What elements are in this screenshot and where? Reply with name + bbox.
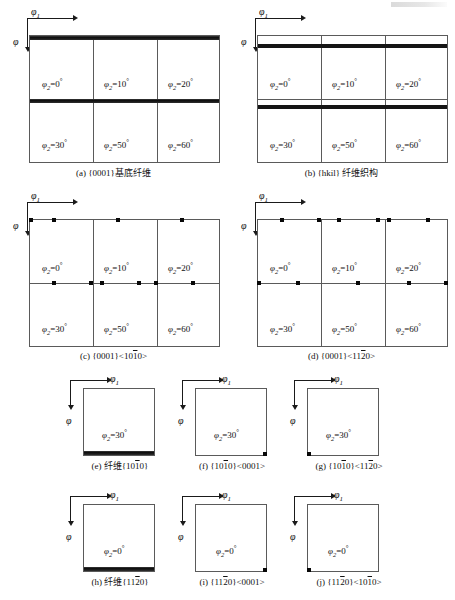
- panel-h-phi1-label: φ1: [110, 490, 119, 503]
- panel-c-point: [29, 218, 33, 222]
- panel-c: φ1 φ φ2=0° φ2=10° φ2=20° φ2=30° φ2=50°: [0, 186, 227, 366]
- panel-c-point: [89, 281, 93, 285]
- panel-c-caption: (c) {0001}<1010>: [0, 352, 227, 362]
- panel-e-caption: (e) 纤维{1010}: [60, 462, 180, 472]
- panel-j-point: [307, 568, 311, 572]
- panel-d-cell-1: φ2=10°: [332, 262, 357, 275]
- panel-c-cell-2: φ2=20°: [168, 262, 193, 275]
- panel-d-point: [376, 218, 380, 222]
- panel-e-plot: φ2=30°: [83, 388, 155, 456]
- panel-j-phi-label: φ: [290, 532, 296, 542]
- panel-h-caption: (h) 纤维{1120}: [60, 578, 180, 588]
- panel-d-point: [407, 281, 411, 285]
- panel-g-caption: (g) {1010}<1120>: [284, 462, 414, 472]
- panel-d-point: [387, 218, 391, 222]
- panel-c-point: [154, 281, 158, 285]
- panel-c-cell-0: φ2=0°: [42, 262, 63, 275]
- panel-g-point: [307, 452, 311, 456]
- panel-d-point: [257, 281, 261, 285]
- panel-g-phi-label: φ: [290, 416, 296, 426]
- panel-f-phi-label: φ: [178, 416, 184, 426]
- panel-c-point: [180, 218, 184, 222]
- panel-b-caption: (b) {hkil} 纤维织构: [228, 169, 455, 179]
- panel-a-cell-4: φ2=50°: [104, 139, 129, 152]
- panel-h: φ1 φ φ2=0° (h) 纤维{1120}: [60, 488, 180, 593]
- panel-d: φ1 φ φ2=0° φ2=10° φ2=20° φ2=30° φ2=50: [228, 186, 455, 366]
- panel-c-cell-1: φ2=10°: [104, 262, 129, 275]
- panel-c-point: [116, 218, 120, 222]
- panel-d-cell-4: φ2=50°: [332, 323, 357, 336]
- panel-a-cell-2: φ2=20°: [168, 78, 193, 91]
- panel-b-cell-2: φ2=20°: [396, 78, 421, 91]
- panel-e: φ1 φ φ2=30° (e) 纤维{1010}: [60, 372, 180, 477]
- panel-b-plot: φ2=0° φ2=10° φ2=20° φ2=30° φ2=50° φ2=60°: [257, 35, 448, 163]
- panel-f-cell: φ2=30°: [214, 429, 239, 442]
- panel-f: φ1 φ φ2=30° (f) {1010}<0001>: [172, 372, 292, 477]
- panel-i-phi-label: φ: [178, 532, 184, 542]
- panel-h-plot: φ2=0°: [83, 504, 155, 572]
- panel-a-cell-1: φ2=10°: [104, 78, 129, 91]
- panel-f-point: [263, 452, 267, 456]
- panel-d-phi-label: φ: [241, 221, 247, 231]
- panel-b-cell-3: φ2=30°: [270, 139, 295, 152]
- panel-b-cell-5: φ2=60°: [396, 139, 421, 152]
- panel-c-point: [52, 281, 56, 285]
- panel-c-cell-4: φ2=50°: [104, 323, 129, 336]
- panel-c-plot: φ2=0° φ2=10° φ2=20° φ2=30° φ2=50° φ2=60°: [29, 219, 220, 347]
- panel-j-plot: φ2=0°: [307, 504, 379, 572]
- panel-g: φ1 φ φ2=30° (g) {1010}<1120>: [284, 372, 414, 477]
- panel-g-plot: φ2=30°: [307, 388, 379, 456]
- panel-b-phi1-label: φ1: [259, 7, 268, 20]
- panel-b-cell-0: φ2=0°: [270, 78, 291, 91]
- panel-c-cell-5: φ2=60°: [168, 323, 193, 336]
- panel-d-phi1-label: φ1: [259, 191, 268, 204]
- panel-a-phi1-label: φ1: [31, 7, 40, 20]
- panel-i-plot: φ2=0°: [195, 504, 267, 572]
- panel-d-point: [317, 218, 321, 222]
- panel-i-phi1-label: φ1: [222, 490, 231, 503]
- panel-j-phi1-label: φ1: [334, 490, 343, 503]
- panel-h-cell: φ2=0°: [104, 545, 125, 558]
- panel-c-point: [100, 281, 104, 285]
- panel-a-caption: (a) {0001}基底纤维: [0, 169, 227, 179]
- panel-i-caption: (i) {1120}<0001>: [172, 578, 292, 588]
- panel-e-band-bottom: [84, 451, 154, 455]
- panel-g-phi1-label: φ1: [334, 374, 343, 387]
- panel-b-band-row2: [258, 105, 447, 109]
- panel-d-point: [337, 218, 341, 222]
- panel-d-point: [296, 281, 300, 285]
- panel-e-phi1-label: φ1: [110, 374, 119, 387]
- panel-b-band-row1: [258, 44, 447, 48]
- panel-d-cell-0: φ2=0°: [270, 262, 291, 275]
- panel-d-cell-5: φ2=60°: [396, 323, 421, 336]
- panel-j-caption: (j) {1120}<1010>: [284, 578, 414, 588]
- panel-b-cell-1: φ2=10°: [332, 78, 357, 91]
- panel-h-band-bottom: [84, 567, 154, 571]
- panel-j-cell: φ2=0°: [328, 545, 349, 558]
- panel-a: φ1 φ φ2=0° φ2=10° φ2=20° φ2=30° φ2=50° φ…: [0, 0, 227, 185]
- panel-c-point: [191, 281, 195, 285]
- panel-a-band-row1: [30, 36, 219, 40]
- panel-d-point: [444, 281, 448, 285]
- panel-d-cell-3: φ2=30°: [270, 323, 295, 336]
- panel-i-cell: φ2=0°: [216, 545, 237, 558]
- panel-e-cell: φ2=30°: [102, 429, 127, 442]
- panel-a-plot: φ2=0° φ2=10° φ2=20° φ2=30° φ2=50° φ2=60°: [29, 35, 220, 163]
- panel-b-cell-4: φ2=50°: [332, 139, 357, 152]
- panel-h-phi-label: φ: [66, 532, 72, 542]
- panel-d-plot: φ2=0° φ2=10° φ2=20° φ2=30° φ2=50° φ2=60°: [257, 219, 448, 347]
- panel-a-cell-0: φ2=0°: [42, 78, 63, 91]
- panel-f-caption: (f) {1010}<0001>: [172, 462, 292, 472]
- panel-c-cell-3: φ2=30°: [42, 323, 67, 336]
- panel-e-phi-label: φ: [66, 416, 72, 426]
- panel-b: φ1 φ φ2=0° φ2=10° φ2=20° φ2=30° φ2=50° φ…: [228, 0, 455, 185]
- panel-f-plot: φ2=30°: [195, 388, 267, 456]
- panel-a-cell-3: φ2=30°: [42, 139, 67, 152]
- panel-c-point: [52, 218, 56, 222]
- panel-a-cell-5: φ2=60°: [168, 139, 193, 152]
- panel-j: φ1 φ φ2=0° (j) {1120}<1010>: [284, 488, 414, 593]
- panel-d-point: [426, 218, 430, 222]
- panel-d-caption: (d) {0001}<1120>: [228, 352, 455, 362]
- panel-d-point: [280, 218, 284, 222]
- panel-f-phi1-label: φ1: [222, 374, 231, 387]
